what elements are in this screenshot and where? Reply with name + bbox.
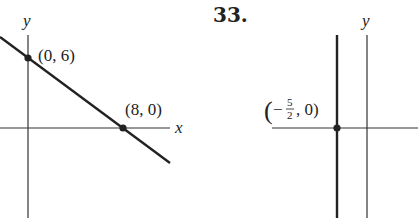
left-y-axis-label: y [21, 11, 31, 30]
point-label-neg5-2-0: ( − 5 2 , 0) [264, 96, 319, 125]
left-x-axis-label: x [174, 118, 183, 137]
left-graph: y x (0, 6) (8, 0) [0, 11, 183, 218]
fraction-denominator: 2 [287, 109, 293, 121]
problem-number: 33. [213, 3, 248, 27]
point-8-0 [119, 124, 126, 131]
point-neg5-2-0 [333, 124, 340, 131]
fraction-numerator: 5 [287, 96, 293, 108]
label-open-paren: ( [264, 96, 273, 125]
label-rest: , 0) [296, 100, 319, 119]
label-minus-sign: − [273, 100, 283, 119]
point-label-8-0: (8, 0) [125, 100, 162, 119]
point-label-0-6: (0, 6) [38, 46, 75, 65]
right-y-axis-label: y [360, 11, 370, 30]
right-graph: y ( − 5 2 , 0) [264, 11, 418, 218]
point-0-6 [24, 54, 31, 61]
graphs-figure: y x (0, 6) (8, 0) 33. y ( − 5 2 , 0) [0, 0, 418, 221]
